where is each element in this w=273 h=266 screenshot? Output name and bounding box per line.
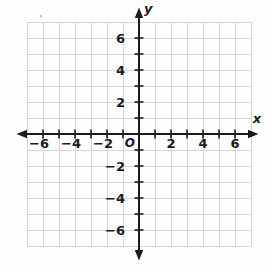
y-tick-label: −2 [105, 159, 125, 174]
y-tick-label: 4 [116, 63, 125, 78]
y-tick-label: −6 [105, 223, 125, 238]
coordinate-plane-figure: −6−4−2246642−2−4−6Oxy [0, 0, 273, 266]
x-tick-label: −2 [93, 136, 113, 151]
stray-mark [40, 15, 42, 17]
x-tick-label: 2 [166, 136, 175, 151]
x-tick-label: −4 [61, 136, 81, 151]
origin-label: O [125, 136, 135, 150]
coordinate-plane: −6−4−2246642−2−4−6Oxy [0, 0, 273, 266]
x-tick-label: 6 [230, 136, 239, 151]
y-tick-label: −4 [105, 191, 125, 206]
x-tick-label: −6 [29, 136, 49, 151]
x-axis-label: x [252, 111, 262, 126]
x-tick-label: 4 [198, 136, 207, 151]
y-tick-label: 6 [116, 31, 125, 46]
y-tick-label: 2 [116, 95, 125, 110]
y-axis-label: y [144, 1, 153, 16]
